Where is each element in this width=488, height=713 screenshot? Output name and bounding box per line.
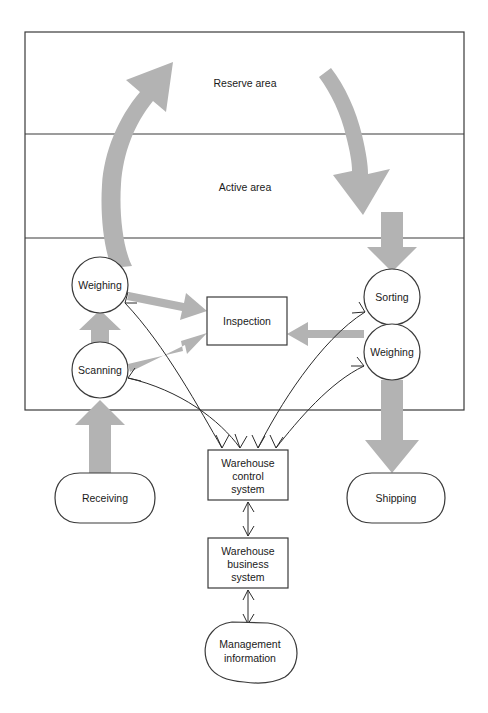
flow-arrow-reserve-to-active [319, 68, 390, 215]
wbs-label-line1: Warehouse [221, 545, 274, 557]
flow-arrow-weighing-left-to-inspection [127, 292, 207, 320]
receiving-label: Receiving [82, 492, 128, 504]
node-sorting[interactable]: Sorting [364, 269, 420, 325]
wcs-label-line2: control [232, 470, 264, 482]
link-wcs-to-weighing-right [276, 366, 364, 448]
weighing-left-label: Weighing [78, 279, 122, 291]
up-arrow-scanning-shape [79, 310, 121, 345]
flow-arrow-active-to-sorting [367, 212, 417, 272]
arrowhead-sorting [352, 302, 365, 313]
inspection-label: Inspection [223, 315, 271, 327]
curved-down-arrow-shape [319, 68, 390, 215]
flow-arrow-scanning-to-inspection [128, 333, 207, 372]
flow-arrow-receiving-to-scanning [75, 400, 125, 473]
node-weighing-right[interactable]: Weighing [364, 324, 420, 380]
diagonal-arrow-weighing-inspection-shape [127, 292, 207, 320]
link-wcs-wbs [243, 502, 254, 536]
node-weighing-left[interactable]: Weighing [72, 257, 128, 313]
wcs-label-line3: system [231, 483, 265, 495]
shipping-label: Shipping [376, 492, 417, 504]
wcs-label-line1: Warehouse [221, 457, 274, 469]
node-shipping[interactable]: Shipping [347, 473, 445, 523]
node-warehouse-control-system[interactable]: Warehouse control system [208, 450, 288, 500]
flow-arrow-scanning-to-weighing [79, 310, 121, 345]
left-arrow-weighing-inspection-shape [287, 322, 364, 346]
curved-up-arrow-shape [101, 62, 173, 268]
node-management-information[interactable]: Management information [205, 622, 297, 683]
link-wcs-to-scanning [128, 378, 240, 448]
weighing-right-label: Weighing [370, 346, 414, 358]
warehouse-flow-diagram: Reserve area Active area Weighing [0, 0, 488, 713]
active-area-label: Active area [219, 181, 272, 193]
node-warehouse-business-system[interactable]: Warehouse business system [208, 538, 288, 588]
down-arrow-to-sorting-shape [367, 212, 417, 272]
node-inspection[interactable]: Inspection [207, 297, 287, 345]
arrowhead-weighing-right [351, 357, 364, 366]
wbs-label-line2: business [227, 558, 268, 570]
scanning-label: Scanning [78, 364, 122, 376]
down-arrow-shipping-shape [365, 380, 419, 473]
wbs-label-line3: system [231, 571, 265, 583]
mi-label-line2: information [224, 652, 276, 664]
flow-arrow-weighing-right-to-inspection [287, 322, 364, 346]
flow-arrow-to-reserve-area [101, 62, 173, 268]
node-receiving[interactable]: Receiving [55, 473, 155, 523]
reserve-area-label: Reserve area [213, 77, 276, 89]
flow-arrow-weighing-to-shipping [365, 380, 419, 473]
link-wbs-mi [243, 590, 254, 624]
mi-label-line1: Management [219, 638, 280, 650]
arrowhead-wcs-from-scanning [235, 434, 247, 448]
up-arrow-receiving-shape [75, 400, 125, 473]
node-scanning[interactable]: Scanning [72, 342, 128, 398]
diagonal-arrow-scanning-inspection-shape [128, 333, 207, 372]
sorting-label: Sorting [375, 291, 408, 303]
